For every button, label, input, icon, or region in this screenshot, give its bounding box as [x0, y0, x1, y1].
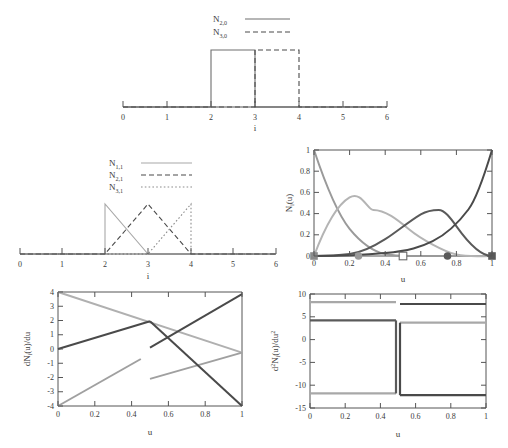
xticklabels-cubic: 0 0.2 0.4 0.6 0.8 1: [312, 259, 494, 268]
plot-frame-cubic: [314, 150, 492, 256]
ytick-label: -1: [47, 359, 54, 368]
xtick-label: 0.2: [90, 410, 100, 419]
xtick-label: 1: [490, 259, 494, 268]
panel-basis-cubic: 0 0.2 0.4 0.6 0.8 1 0 0.2 0.4 0.6 0.8 1 …: [282, 144, 508, 284]
xticks-degree1: [20, 248, 276, 254]
xtick-label: 0: [18, 260, 22, 269]
xtick-label: 0.4: [375, 412, 385, 421]
legend-entry-1-sub: 2,1: [116, 176, 124, 182]
xticklabels-degree1: 0 1 2 3 4 5 6: [18, 260, 278, 269]
panel-basis-cubic-svg: 0 0.2 0.4 0.6 0.8 1 0 0.2 0.4 0.6 0.8 1 …: [282, 144, 508, 284]
curves-d2: [310, 302, 486, 395]
xticks-cubic: [314, 150, 492, 256]
curves-d1: [58, 292, 242, 406]
ytick-label: -3: [47, 387, 54, 396]
legend-entry-1-sub: 3,0: [220, 33, 228, 39]
xtick-label: 3: [146, 260, 150, 269]
xtick-label: 0: [312, 259, 316, 268]
xticklabels-d1: 0 0.2 0.4 0.6 0.8 1: [56, 410, 244, 419]
panel-second-derivative-svg: -15 -10 -5 0 5 10 0 0.2 0.4 0.6 0.8 1 u …: [258, 282, 508, 448]
yaxis-title-prefix: dN: [22, 355, 32, 367]
curve-n21: [20, 204, 276, 254]
xtick-label: 0.6: [411, 412, 421, 421]
xtick-label: 1: [240, 410, 244, 419]
marker-filled-circle: [444, 252, 452, 260]
ytick-label: 2: [50, 316, 54, 325]
panel-first-derivative: -4 -3 -2 -1 0 1 2 3 4 0 0.2 0.4 0.6 0.8 …: [10, 282, 255, 448]
xaxis-title-degree1: i: [147, 271, 150, 281]
marker-open-square: [399, 252, 407, 260]
xtick-label: 4: [189, 260, 193, 269]
xtick-label: 6: [385, 113, 389, 122]
curve-n0-cubic: [314, 150, 492, 256]
ytick-label: -2: [47, 373, 54, 382]
ytick-label: 0: [306, 252, 310, 261]
xtick-label: 5: [341, 113, 345, 122]
panel-degree0-svg: N2,0 N3,0 0 1 2 3 4 5: [105, 2, 405, 132]
ytick-label: 1: [306, 146, 310, 155]
xtick-label: 0.6: [163, 410, 173, 419]
xtick-label: 0.2: [345, 259, 355, 268]
yaxis-title-cubic: Ni(u): [284, 194, 295, 213]
legend-entry-1-label: N2,1: [109, 170, 123, 182]
xaxis-title-degree0: i: [254, 123, 257, 133]
xtick-label: 0: [56, 410, 60, 419]
yaxis-title-suffix: (u)/du: [270, 333, 280, 355]
xtick-label: 2: [209, 113, 213, 122]
ytick-label: -5: [299, 358, 306, 367]
xticks-degree0: [123, 101, 387, 107]
xticklabels-d2: 0 0.2 0.4 0.6 0.8 1: [308, 412, 488, 421]
yaxis-title-d1: dNi(u)/du: [22, 331, 33, 366]
curve-n30: [123, 50, 387, 107]
xtick-label: 2: [103, 260, 107, 269]
curve-d1-n2a: [58, 321, 150, 349]
legend-degree0: N2,0 N3,0: [213, 14, 290, 39]
xaxis-title-d2: u: [396, 429, 401, 439]
marker-filled-circle: [355, 252, 363, 260]
xtick-label: 0.6: [416, 259, 426, 268]
plot-frame-d2: [310, 294, 486, 408]
ytick-label: -15: [295, 404, 306, 413]
xticks-d2: [310, 294, 486, 408]
legend-entry-1-label: N3,0: [213, 27, 227, 39]
ytick-label: 5: [302, 312, 306, 321]
yaxis-title-d2: d2Ni(u)/du2: [270, 331, 281, 372]
curve-n11: [20, 204, 276, 254]
curves-cubic: [314, 150, 492, 256]
xtick-label: 0: [308, 412, 312, 421]
xtick-label: 1: [165, 113, 169, 122]
curve-n3-cubic: [314, 150, 492, 256]
ytick-label: 1: [50, 330, 54, 339]
xtick-label: 0.8: [446, 412, 456, 421]
ytick-label: 0: [50, 345, 54, 354]
xtick-label: 1: [484, 412, 488, 421]
yticks-cubic: [314, 150, 492, 256]
xtick-label: 4: [297, 113, 301, 122]
ytick-label: 0.6: [300, 188, 310, 197]
yticklabels-d2: -15 -10 -5 0 5 10: [295, 290, 306, 413]
xtick-label: 6: [274, 260, 278, 269]
yaxis-title-tail: (u): [284, 194, 294, 205]
legend-entry-2-label: N3,1: [109, 182, 123, 194]
ytick-label: 10: [298, 290, 306, 299]
yticks-d1: [58, 292, 63, 406]
xtick-label: 0: [121, 113, 125, 122]
curve-d1-n3: [150, 294, 242, 348]
legend-entry-0-sub: 2,0: [220, 20, 228, 26]
curve-d1-n1b: [150, 353, 242, 379]
xtick-label: 5: [231, 260, 235, 269]
xaxis-title-d1: u: [148, 427, 153, 437]
panel-second-derivative: -15 -10 -5 0 5 10 0 0.2 0.4 0.6 0.8 1 u …: [258, 282, 508, 448]
xticklabels-degree0: 0 1 2 3 4 5 6: [121, 113, 389, 122]
ytick-label: 0: [302, 335, 306, 344]
yticks-d2: [310, 294, 486, 408]
xtick-label: 0.2: [340, 412, 350, 421]
xtick-label: 0.4: [127, 410, 137, 419]
xtick-label: 3: [253, 113, 257, 122]
yticklabels-cubic: 0 0.2 0.4 0.6 0.8 1: [300, 146, 310, 261]
panel-degree1: N1,1 N2,1 N3,1 0 1: [4, 146, 294, 281]
yticklabels-d1: -4 -3 -2 -1 0 1 2 3 4: [47, 288, 54, 411]
ytick-label: 4: [50, 288, 54, 297]
curve-n31: [20, 204, 276, 254]
ytick-label: -4: [47, 402, 54, 411]
